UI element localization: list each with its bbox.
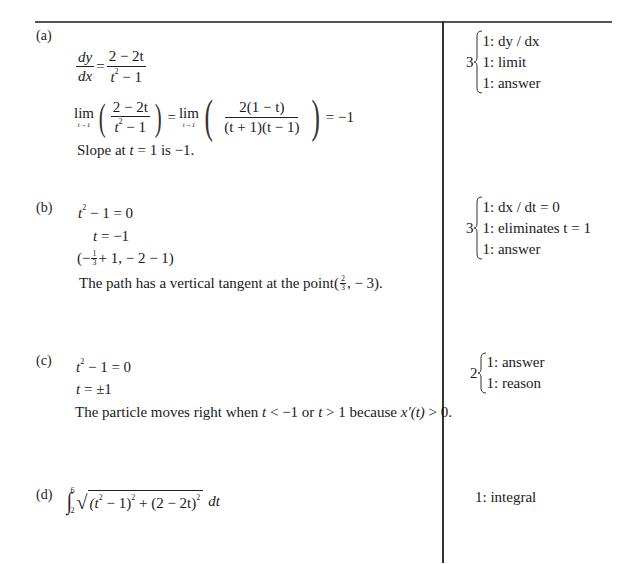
- part-b-label: (b): [36, 200, 52, 216]
- part-b-line2: t = −1: [93, 228, 129, 245]
- scoring-item: 1: dy / dx: [483, 31, 541, 52]
- part-b-point: (− 13 + 1, − 2 − 1): [77, 250, 174, 267]
- square-root: √ (t2 − 1)2 + (2 − 2t)2: [77, 490, 204, 512]
- part-d-integral: ∫ 6 2 √ (t2 − 1)2 + (2 − 2t)2 dt: [66, 487, 220, 515]
- scoring-item: 1: eliminates t = 1: [483, 218, 591, 239]
- part-c-line2: t = ±1: [76, 381, 112, 398]
- scoring-item: 1: answer: [483, 239, 591, 260]
- part-b-line1: t2 − 1 = 0: [78, 203, 133, 222]
- part-c-scoring: 2 1: answer 1: reason: [470, 352, 544, 394]
- integral-sign: ∫: [67, 489, 72, 513]
- part-c-label: (c): [36, 353, 52, 369]
- limit-fraction-1: 2 − 2t t2 − 1: [111, 99, 150, 136]
- scoring-item: 1: answer: [487, 352, 545, 373]
- brace-icon: [474, 30, 483, 94]
- part-a-limit: limt→1 ( 2 − 2t t2 − 1 ) = limt→1 ( 2(1 …: [74, 94, 354, 140]
- brace-icon: [478, 352, 487, 394]
- scoring-item: 1: integral: [475, 489, 536, 505]
- part-d-scoring: 1: integral: [475, 489, 536, 506]
- scoring-item: 1: reason: [487, 373, 545, 394]
- part-a-label: (a): [36, 28, 52, 44]
- part-d-label: (d): [36, 487, 52, 503]
- limit-fraction-2: 2(1 − t) (t + 1)(t − 1): [222, 99, 301, 135]
- part-a-conclusion: Slope at t = 1 is −1.: [77, 142, 194, 159]
- brace-icon: [474, 196, 483, 260]
- part-a-derivative: dy dx = 2 − 2t t2 − 1: [74, 48, 148, 85]
- derivative-rhs-fraction: 2 − 2t t2 − 1: [107, 48, 146, 85]
- scoring-item: 1: answer: [483, 73, 541, 94]
- part-c-conclusion: The particle moves right when t < −1 or …: [75, 404, 452, 421]
- part-b-conclusion: The path has a vertical tangent at the p…: [79, 275, 383, 292]
- scoring-item: 1: limit: [483, 52, 541, 73]
- part-b-scoring: 3 1: dx / dt = 0 1: eliminates t = 1 1: …: [466, 196, 591, 260]
- scoring-item: 1: dx / dt = 0: [483, 197, 591, 218]
- dy-dx-fraction: dy dx: [76, 49, 94, 85]
- top-rule: [35, 21, 612, 23]
- part-c-line1: t2 − 1 = 0: [76, 357, 131, 376]
- column-divider: [442, 21, 444, 563]
- part-a-scoring: 3 1: dy / dx 1: limit 1: answer: [466, 30, 540, 94]
